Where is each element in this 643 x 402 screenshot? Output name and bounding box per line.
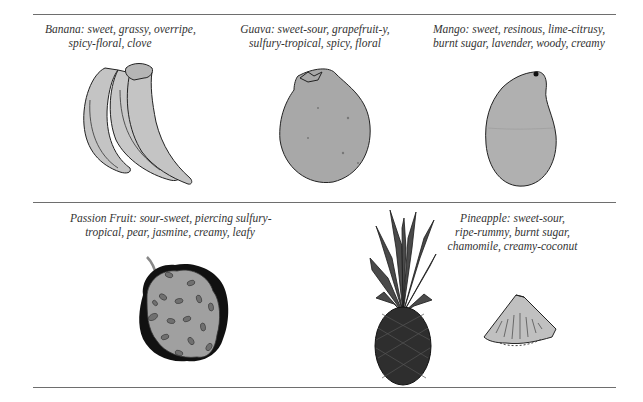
banana-illustration <box>70 60 195 190</box>
mango-illustration <box>484 68 560 188</box>
caption-line: burnt sugar, lavender, woody, creamy <box>433 36 603 50</box>
passion-fruit-caption: Passion Fruit: sour-sweet, piercing sulf… <box>70 211 270 239</box>
caption-line: Pineapple: sweet-sour, <box>445 211 580 225</box>
caption-line: sulfury-tropical, spicy, floral <box>240 36 390 50</box>
caption-line: Banana: sweet, grassy, overripe, <box>45 22 175 36</box>
guava-caption: Guava: sweet-sour, grapefruit-y, sulfury… <box>240 22 390 50</box>
pineapple-caption: Pineapple: sweet-sour, ripe-rummy, burnt… <box>445 211 580 253</box>
caption-line: spicy-floral, clove <box>45 36 175 50</box>
pineapple-slice-illustration <box>482 293 558 349</box>
top-divider <box>33 14 616 15</box>
caption-line: Mango: sweet, resinous, lime-citrusy, <box>433 22 603 36</box>
passion-fruit-illustration <box>135 255 235 367</box>
caption-line: Passion Fruit: sour-sweet, piercing sulf… <box>70 211 270 225</box>
caption-line: chamomile, creamy-coconut <box>445 239 580 253</box>
pineapple-illustration <box>368 208 438 386</box>
caption-line: ripe-rummy, burnt sugar, <box>445 225 580 239</box>
caption-line: tropical, pear, jasmine, creamy, leafy <box>70 225 270 239</box>
guava-illustration <box>278 68 374 186</box>
bottom-divider <box>33 387 616 388</box>
mango-caption: Mango: sweet, resinous, lime-citrusy, bu… <box>433 22 603 50</box>
banana-caption: Banana: sweet, grassy, overripe, spicy-f… <box>45 22 175 50</box>
caption-line: Guava: sweet-sour, grapefruit-y, <box>240 22 390 36</box>
middle-divider <box>33 202 616 203</box>
